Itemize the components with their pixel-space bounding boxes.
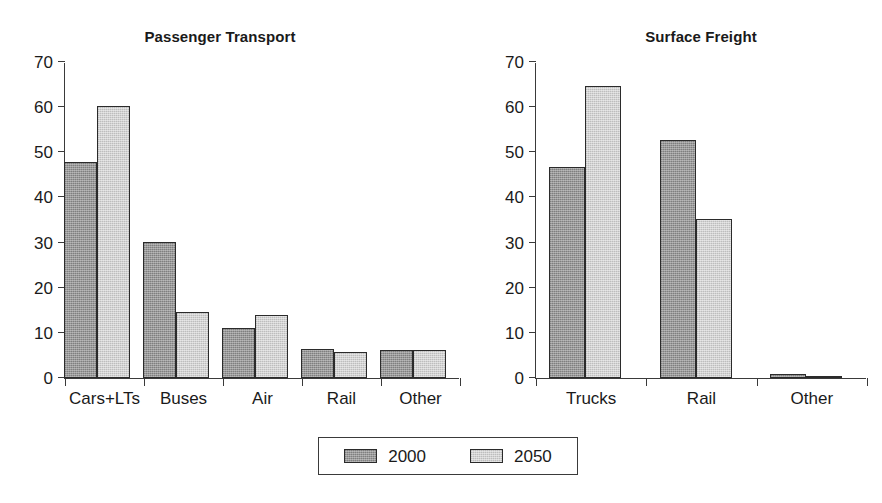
x-axis-tick — [223, 378, 224, 386]
y-axis-tick: 50 — [529, 151, 536, 152]
x-axis-category-label: Trucks — [566, 390, 616, 407]
bar-2050-rail — [334, 352, 367, 378]
y-axis-tick-label: 0 — [515, 370, 524, 387]
y-axis-tick-label: 20 — [34, 279, 53, 296]
y-axis-tick-label: 30 — [34, 234, 53, 251]
legend-item-2000: 2000 — [344, 448, 426, 465]
bar-2050-other — [806, 376, 842, 379]
y-axis-tick-label: 40 — [505, 189, 524, 206]
bar-2000-rail — [660, 140, 696, 378]
chart-title-surface-freight: Surface Freight — [500, 28, 882, 45]
y-axis-tick-label: 10 — [34, 324, 53, 341]
x-axis-category-label: Other — [791, 390, 834, 407]
x-axis-tick — [757, 378, 758, 386]
y-axis-tick-label: 20 — [505, 279, 524, 296]
x-axis-tick — [646, 378, 647, 386]
bar-2000-rail — [301, 349, 334, 378]
y-axis-tick: 20 — [529, 287, 536, 288]
x-axis-category-label: Rail — [687, 390, 716, 407]
y-axis-tick: 70 — [58, 61, 65, 62]
x-axis-category-label: Rail — [327, 390, 356, 407]
y-axis-tick-label: 50 — [34, 144, 53, 161]
legend-swatch-2000 — [344, 449, 377, 463]
chart-figure: Passenger Transport 010203040506070Cars+… — [0, 0, 882, 503]
bar-2000-buses — [143, 242, 176, 378]
legend-item-2050: 2050 — [470, 448, 552, 465]
y-axis-tick: 30 — [529, 242, 536, 243]
bar-2000-air — [222, 328, 255, 378]
y-axis-tick-label: 30 — [505, 234, 524, 251]
legend-label-2000: 2000 — [388, 448, 426, 465]
bar-2050-air — [255, 315, 288, 378]
y-axis-tick-label: 10 — [505, 324, 524, 341]
bar-2050-trucks — [585, 86, 621, 378]
y-axis-tick-label: 40 — [34, 189, 53, 206]
bar-2050-rail — [696, 219, 732, 378]
x-axis-tick — [302, 378, 303, 386]
bar-2000-cars-lts — [64, 162, 97, 378]
y-axis-tick: 70 — [529, 61, 536, 62]
x-axis-tick — [381, 378, 382, 386]
x-axis-category-label: Other — [399, 390, 442, 407]
y-axis-tick: 0 — [529, 377, 536, 378]
plot-area-surface-freight: 010203040506070TrucksRailOther — [535, 63, 866, 379]
x-axis-tick — [867, 378, 868, 386]
chart-legend: 2000 2050 — [318, 437, 578, 475]
x-axis-tick — [536, 378, 537, 386]
y-axis-tick: 40 — [529, 196, 536, 197]
y-axis-tick: 10 — [529, 332, 536, 333]
x-axis-category-label: Air — [252, 390, 273, 407]
y-axis-tick-label: 60 — [34, 99, 53, 116]
y-axis-tick-label: 0 — [44, 370, 53, 387]
x-axis-tick — [460, 378, 461, 386]
y-axis-tick: 60 — [529, 106, 536, 107]
y-axis-tick-label: 70 — [505, 54, 524, 71]
chart-title-passenger-transport: Passenger Transport — [0, 28, 460, 45]
chart-panel-passenger-transport: Passenger Transport 010203040506070Cars+… — [0, 0, 480, 415]
y-axis-tick-label: 50 — [505, 144, 524, 161]
x-axis-tick — [65, 378, 66, 386]
bar-2000-trucks — [549, 167, 585, 378]
plot-area-passenger-transport: 010203040506070Cars+LTsBusesAirRailOther — [64, 63, 459, 379]
legend-label-2050: 2050 — [514, 448, 552, 465]
y-axis-tick: 60 — [58, 106, 65, 107]
legend-swatch-2050 — [470, 449, 503, 463]
x-axis-category-label: Buses — [160, 390, 207, 407]
bar-2000-other — [770, 374, 806, 378]
y-axis-tick: 50 — [58, 151, 65, 152]
bar-2050-other — [413, 350, 446, 378]
x-axis-tick — [144, 378, 145, 386]
bar-2050-buses — [176, 312, 209, 378]
y-axis-tick-label: 70 — [34, 54, 53, 71]
bar-2050-cars-lts — [97, 106, 130, 378]
bar-2000-other — [380, 350, 413, 378]
x-axis-category-label: Cars+LTs — [69, 390, 140, 407]
y-axis-tick-label: 60 — [505, 99, 524, 116]
chart-panel-surface-freight: Surface Freight 010203040506070TrucksRai… — [480, 0, 882, 415]
